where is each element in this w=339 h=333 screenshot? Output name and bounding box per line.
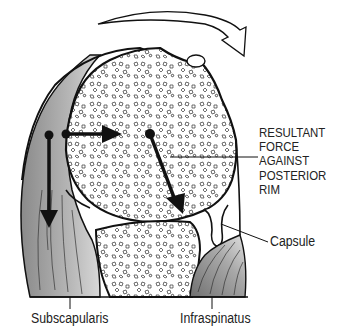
label-line: AGAINST [259, 154, 326, 168]
glenoid [96, 221, 200, 297]
label-line: RESULTANT [259, 126, 326, 140]
capsule-label: Capsule [270, 234, 315, 248]
subscapularis-label: Subscapularis [31, 311, 108, 325]
label-line: FORCE [259, 140, 326, 154]
label-line: RIM [259, 183, 326, 197]
label-line: POSTERIOR [259, 169, 326, 183]
resultant-force-label: RESULTANT FORCE AGAINST POSTERIOR RIM [259, 126, 326, 197]
tubercle [187, 55, 205, 67]
capsule-leader [221, 224, 268, 242]
infraspinatus-label: Infraspinatus [180, 311, 251, 325]
